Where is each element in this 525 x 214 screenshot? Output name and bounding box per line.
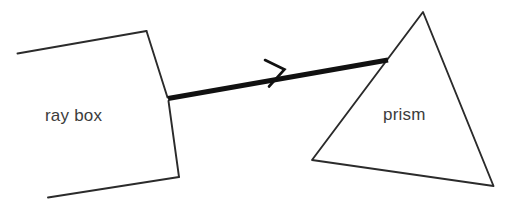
optics-diagram-canvas: ray box prism <box>0 0 525 214</box>
prism-label: prism <box>383 105 426 124</box>
ray-box-label: ray box <box>45 106 102 125</box>
optics-diagram: ray box prism <box>0 0 525 214</box>
